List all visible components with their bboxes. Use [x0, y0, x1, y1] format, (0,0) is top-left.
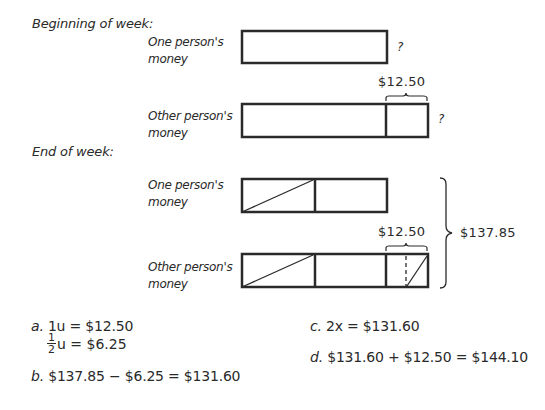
- solution-text: 2x = $131.60: [326, 318, 419, 334]
- difference-amount-end: $12.50: [378, 224, 425, 239]
- solution-prefix: a.: [31, 318, 44, 334]
- spent-diagonal: [407, 256, 427, 286]
- solution-text: $137.85 − $6.25 = $131.60: [48, 368, 240, 384]
- brace-total: [440, 178, 452, 288]
- solution-prefix: b.: [31, 368, 44, 384]
- solution-c: c. 2x = $131.60: [310, 318, 419, 334]
- bar-other-person-beginning: [242, 104, 428, 137]
- difference-amount-beginning: $12.50: [378, 74, 425, 89]
- solution-text: $131.60 + $12.50 = $144.10: [327, 349, 528, 365]
- brace-difference-beginning: [386, 93, 427, 101]
- bar-one-person-beginning: [242, 31, 387, 63]
- bar-other-person-end: [242, 254, 428, 287]
- solution-prefix: d.: [310, 349, 323, 365]
- spent-diagonal: [242, 255, 313, 287]
- solution-d: d. $131.60 + $12.50 = $144.10: [310, 349, 528, 365]
- fraction-half: 1 2: [47, 332, 56, 355]
- unknown-one-person: ?: [397, 40, 403, 54]
- solution-prefix: c.: [310, 318, 322, 334]
- brace-difference-end: [386, 243, 427, 251]
- solution-text: u = $6.25: [57, 336, 127, 352]
- solution-a-line2: 1 2 u = $6.25: [47, 332, 127, 355]
- spent-diagonal: [242, 180, 313, 212]
- solution-b: b. $137.85 − $6.25 = $131.60: [31, 368, 240, 384]
- fraction-denominator: 2: [48, 344, 55, 355]
- total-amount: $137.85: [460, 225, 516, 240]
- unknown-other-person: ?: [438, 112, 444, 126]
